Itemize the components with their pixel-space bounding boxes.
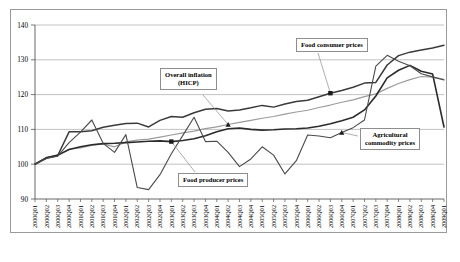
ytick-label-140: 140 xyxy=(17,22,28,30)
annotation-label: Food consumer prices xyxy=(301,41,363,48)
xtick-label-2006Q03: 2006Q03 xyxy=(327,205,334,228)
xtick-label-2003Q01: 2003Q01 xyxy=(168,205,175,228)
ytick-label-110: 110 xyxy=(17,126,28,134)
annotation-agricultural-commodity-prices: Agricultural commodity prices xyxy=(360,128,420,150)
xtick-label-2005Q03: 2005Q03 xyxy=(281,205,288,228)
xtick-label-2005Q04: 2005Q04 xyxy=(293,205,300,228)
ytick-label-130: 130 xyxy=(17,56,28,64)
xtick-label-2002Q03: 2002Q03 xyxy=(145,205,152,228)
xtick-label-2004Q04: 2004Q04 xyxy=(247,205,254,228)
xtick-label-2003Q03: 2003Q03 xyxy=(190,205,197,228)
xtick-label-2001Q01: 2001Q01 xyxy=(77,205,84,228)
xtick-label-2009Q01: 2009Q01 xyxy=(440,205,447,228)
xtick-label-2007Q02: 2007Q02 xyxy=(361,205,368,228)
xtick-label-2006Q02: 2006Q02 xyxy=(315,205,322,228)
xtick-label-2001Q02: 2001Q02 xyxy=(88,205,95,228)
xtick-label-2008Q04: 2008Q04 xyxy=(429,205,436,228)
xtick-label-2003Q04: 2003Q04 xyxy=(202,205,209,228)
xtick-label-2007Q03: 2007Q03 xyxy=(372,205,379,228)
annotation-label-line2: commodity prices xyxy=(365,139,415,146)
leader-food-consumer-prices-marker xyxy=(328,91,332,95)
annotation-label-line1: Agricultural xyxy=(372,131,407,138)
leader-food-producer-prices-marker xyxy=(169,139,173,143)
xtick-label-2002Q01: 2002Q01 xyxy=(122,205,129,228)
xtick-label-2000Q01: 2000Q01 xyxy=(31,205,38,228)
xtick-label-2008Q02: 2008Q02 xyxy=(406,205,413,228)
xtick-label-2004Q02: 2004Q02 xyxy=(224,205,231,228)
xtick-label-2008Q03: 2008Q03 xyxy=(417,205,424,228)
ytick-label-90: 90 xyxy=(21,196,29,204)
annotation-label-line1: Overall inflation xyxy=(165,71,212,78)
leader-food-consumer-prices xyxy=(318,53,330,93)
xtick-label-2005Q02: 2005Q02 xyxy=(270,205,277,228)
ytick-label-100: 100 xyxy=(17,161,28,169)
xtick-label-2004Q01: 2004Q01 xyxy=(213,205,220,228)
xtick-label-2008Q01: 2008Q01 xyxy=(395,205,402,228)
leader-agricultural-commodity-prices xyxy=(342,133,358,136)
xtick-label-2000Q03: 2000Q03 xyxy=(54,205,61,228)
xtick-label-2007Q04: 2007Q04 xyxy=(383,205,390,228)
xtick-label-2001Q03: 2001Q03 xyxy=(99,205,106,228)
annotation-label: Food producer prices xyxy=(183,176,243,183)
ytick-label-120: 120 xyxy=(17,91,28,99)
annotation-food-producer-prices: Food producer prices xyxy=(178,173,248,187)
xtick-label-2006Q01: 2006Q01 xyxy=(304,205,311,228)
xtick-label-2000Q02: 2000Q02 xyxy=(43,205,50,228)
xtick-label-2002Q02: 2002Q02 xyxy=(133,205,140,228)
chart-figure: 901001101201301402000Q012000Q022000Q0320… xyxy=(0,0,460,262)
xtick-label-2000Q04: 2000Q04 xyxy=(65,205,72,228)
xtick-label-2007Q01: 2007Q01 xyxy=(349,205,356,228)
annotation-label-line2: (HICP) xyxy=(178,79,199,86)
xtick-label-2003Q02: 2003Q02 xyxy=(179,205,186,228)
leader-food-producer-prices xyxy=(171,142,195,172)
series-line-overall-inflation-hicp xyxy=(35,77,444,165)
xtick-label-2004Q03: 2004Q03 xyxy=(236,205,243,228)
xtick-label-2001Q04: 2001Q04 xyxy=(111,205,118,228)
annotation-food-consumer-prices: Food consumer prices xyxy=(296,38,368,52)
xtick-label-2005Q01: 2005Q01 xyxy=(258,205,265,228)
xtick-label-2002Q04: 2002Q04 xyxy=(156,205,163,228)
xtick-label-2006Q04: 2006Q04 xyxy=(338,205,345,228)
annotation-overall-inflation: Overall inflation (HICP) xyxy=(160,68,217,90)
